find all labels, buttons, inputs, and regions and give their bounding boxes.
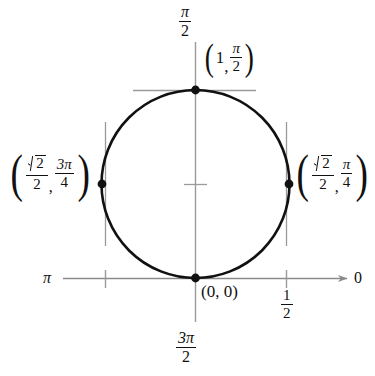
point-label-right: ( 2 2 , π 4 )	[294, 153, 371, 195]
axis-label-3pi-over-2-denominator: 2	[180, 348, 192, 365]
polar-graph-figure: π 2 3π 2 π 0 1 2 ( 1 ,	[0, 0, 375, 376]
point-label-left-theta-numerator: 3π	[55, 157, 74, 174]
point-label-right-theta-numerator: π	[341, 157, 353, 174]
point-label-left-theta-denominator: 4	[59, 174, 71, 190]
point-label-left-comma: ,	[49, 179, 54, 195]
radical-sign-icon	[28, 155, 35, 171]
axis-label-one-half-denominator: 2	[281, 305, 293, 321]
axis-label-pi-over-2: π 2	[178, 4, 192, 40]
axis-label-pi: π	[43, 270, 51, 286]
radical-sign-icon	[314, 155, 321, 171]
point-label-right-comma: ,	[335, 179, 340, 195]
axis-label-zero: 0	[354, 270, 362, 286]
point-marker-left	[98, 180, 107, 189]
axis-label-3pi-over-2: 3π 2	[175, 330, 197, 366]
point-label-origin: (0, 0)	[201, 283, 238, 300]
point-label-left: ( 2 2 , 3π 4 )	[8, 153, 92, 195]
axis-label-one-half-numerator: 1	[281, 288, 293, 305]
axis-label-pi-over-2-denominator: 2	[179, 22, 191, 39]
point-marker-top	[191, 86, 200, 95]
point-label-top-r: 1	[216, 49, 225, 66]
axis-label-3pi-over-2-numerator: 3π	[176, 330, 196, 348]
point-label-left-r-numerator: 2	[26, 155, 48, 177]
point-label-top-theta-denominator: 2	[230, 58, 242, 74]
point-label-right-r-numerator: 2	[312, 155, 334, 177]
point-marker-origin	[191, 274, 200, 283]
point-label-right-theta-denominator: 4	[341, 174, 353, 190]
point-label-top: ( 1 , π 2 )	[203, 41, 256, 75]
point-label-left-r-denominator: 2	[31, 176, 43, 192]
axis-label-one-half: 1 2	[280, 288, 294, 322]
point-label-top-theta-numerator: π	[230, 41, 242, 58]
axis-label-pi-over-2-numerator: π	[179, 4, 191, 22]
point-label-right-r-denominator: 2	[317, 176, 329, 192]
point-label-top-comma: ,	[224, 58, 229, 75]
point-marker-right	[285, 180, 294, 189]
